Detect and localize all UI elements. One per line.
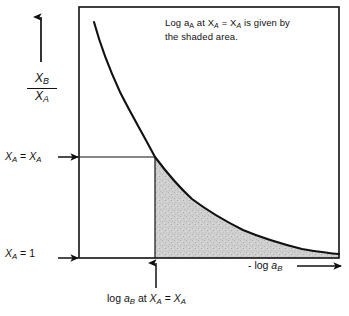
shaded-area [155,157,339,258]
bottom-caption: log aB at XA = XA [107,292,186,307]
annotation-line-2: the shaded area. [165,31,330,43]
tick-label-x-a-equals-one: XA = 1 [5,247,35,262]
tick-label-x-a-equals-x-a: XA = XA [5,150,41,165]
figure-container: Log aA at XA = XA is given by the shaded… [0,0,349,316]
x-axis-label: - log aB [248,259,282,274]
shaded-area-annotation: Log aA at XA = XA is given by the shaded… [165,17,330,43]
y-axis-label: XB XA [20,72,64,104]
annotation-line-1: Log aA at XA = XA is given by [165,17,290,28]
y-axis-denominator: XA [20,90,64,105]
y-axis-numerator: XB [20,72,64,87]
figure-graphics [0,0,349,316]
